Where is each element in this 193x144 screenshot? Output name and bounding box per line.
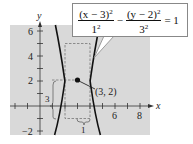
second-denominator-exponent: 2 xyxy=(145,23,149,31)
x-axis-label: x xyxy=(155,100,161,111)
first-fraction: (x − 3)2 12 xyxy=(78,6,114,35)
minus-sign: − xyxy=(117,14,123,26)
first-denominator-exponent: 2 xyxy=(97,23,101,31)
horizontal-brace-label: 1 xyxy=(81,125,86,135)
first-numerator-exponent: 2 xyxy=(109,8,113,16)
x-tick-label-6: 6 xyxy=(112,110,117,121)
center-label: (3, 2) xyxy=(95,86,117,98)
y-axis-arrow-icon xyxy=(38,21,42,27)
second-fraction: (y − 2)2 32 xyxy=(126,6,162,35)
y-tick-label-4: 4 xyxy=(28,51,33,62)
x-axis-arrow-icon xyxy=(148,104,154,108)
first-numerator: (x − 3) xyxy=(79,8,109,20)
second-numerator: (y − 2) xyxy=(127,8,157,20)
center-point xyxy=(75,77,80,82)
y-tick-label-neg2: −2 xyxy=(22,126,33,137)
y-tick-label-2: 2 xyxy=(28,75,33,86)
vertical-brace-label: 3 xyxy=(45,94,50,104)
x-tick-label-8: 8 xyxy=(137,110,142,121)
second-numerator-exponent: 2 xyxy=(157,8,161,16)
y-axis-label: y xyxy=(36,10,42,21)
equation-callout: (x − 3)2 12 − (y − 2)2 32 = 1 xyxy=(72,3,188,37)
y-tick-label-6: 6 xyxy=(28,26,33,37)
equation-rhs: = 1 xyxy=(164,14,178,26)
